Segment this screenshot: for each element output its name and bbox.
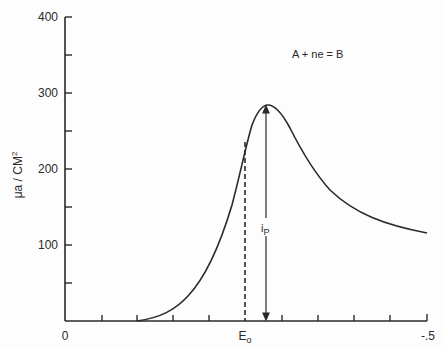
y-tick-100: 100 <box>38 238 58 252</box>
ip-arrow <box>263 106 269 320</box>
svg-text:μa / CM2: μa / CM2 <box>10 151 25 198</box>
voltammogram-curve <box>137 105 427 321</box>
y-tick-400: 400 <box>38 10 58 24</box>
y-ticks <box>65 17 72 283</box>
x-tick-0: 0 <box>62 329 69 343</box>
reaction-annotation: A + ne = B <box>292 48 343 60</box>
y-axis-label: μa / CM2 <box>10 151 25 198</box>
x-tick-e0: Eo <box>238 329 251 345</box>
axes <box>65 17 427 321</box>
x-tick-end: -.5 <box>421 329 435 343</box>
chart-canvas: 400 300 200 100 μa / CM2 0 Eo -.5 iP A +… <box>0 0 444 347</box>
y-tick-200: 200 <box>38 162 58 176</box>
y-tick-300: 300 <box>38 86 58 100</box>
ip-label: iP <box>261 222 269 237</box>
